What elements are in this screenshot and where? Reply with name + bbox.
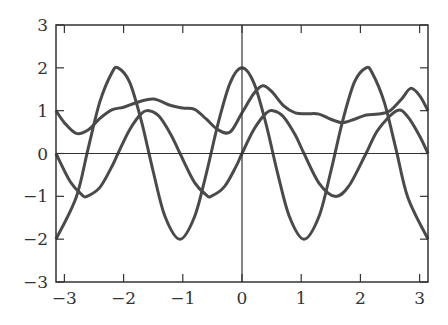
x-tick-label: 2 — [355, 288, 366, 308]
y-tick-label: 2 — [37, 58, 48, 78]
y-tick-label: −1 — [23, 186, 48, 206]
x-tick-label: 1 — [296, 288, 307, 308]
y-tick-label: 3 — [37, 15, 48, 35]
y-tick-label: −3 — [23, 272, 48, 292]
y-tick-label: −2 — [23, 229, 48, 249]
line-chart: −3−2−10123−3−2−10123 — [0, 0, 448, 325]
x-tick-label: −1 — [170, 288, 195, 308]
y-tick-label: 1 — [37, 101, 48, 121]
y-tick-label: 0 — [37, 144, 48, 164]
x-tick-label: −2 — [111, 288, 136, 308]
x-tick-label: 0 — [237, 288, 248, 308]
plot-axes — [56, 25, 428, 282]
x-tick-label: −3 — [52, 288, 77, 308]
x-tick-label: 3 — [414, 288, 425, 308]
tick-labels: −3−2−10123−3−2−10123 — [23, 15, 425, 308]
